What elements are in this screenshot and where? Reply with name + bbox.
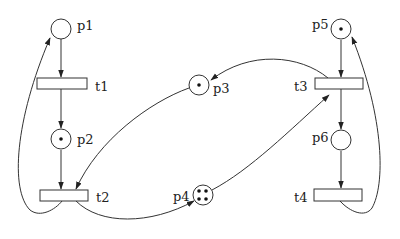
place-p4 (193, 185, 213, 205)
token-icon (197, 197, 201, 201)
label-t3: t3 (294, 79, 308, 94)
token-icon (59, 137, 63, 141)
transition-t4 (314, 189, 362, 201)
transition-t1 (37, 78, 87, 89)
label-p1: p1 (77, 18, 94, 33)
token-icon (197, 83, 201, 87)
arc-t4-p5 (340, 37, 380, 213)
label-t1: t1 (95, 79, 109, 94)
label-t2: t2 (96, 190, 110, 205)
place-p1 (51, 19, 71, 39)
token-icon (204, 197, 208, 201)
label-p5: p5 (312, 17, 329, 32)
arc-t3-p3 (211, 59, 328, 80)
token-icon (197, 189, 201, 193)
label-t4: t4 (294, 190, 308, 205)
transition-t3 (315, 78, 363, 89)
labels: p1 p2 p3 p4 p5 p6 t1 t2 t3 t4 (77, 17, 329, 205)
label-p3: p3 (213, 81, 230, 96)
token-icon (339, 27, 343, 31)
label-p6: p6 (312, 130, 329, 145)
label-p4: p4 (173, 189, 190, 204)
transition-t2 (40, 190, 88, 201)
arc-t2-p1 (18, 38, 62, 213)
token-icon (204, 189, 208, 193)
place-p6 (331, 130, 351, 150)
label-p2: p2 (77, 132, 94, 147)
places (51, 19, 351, 205)
petri-net-diagram: p1 p2 p3 p4 p5 p6 t1 t2 t3 t4 (0, 0, 400, 239)
